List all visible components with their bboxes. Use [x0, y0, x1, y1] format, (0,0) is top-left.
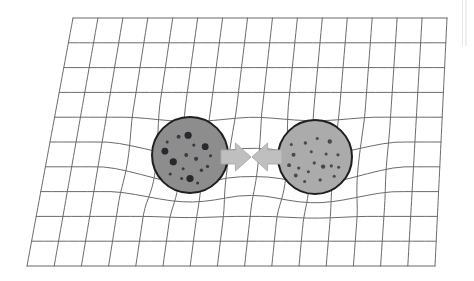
- scan-edge-artifact: [462, 0, 463, 46]
- speckle-dot: [292, 153, 296, 157]
- right-mass-sphere-body: [278, 120, 352, 194]
- speckle-dot: [186, 175, 193, 182]
- grid-line-horizontal: [41, 192, 439, 203]
- right-mass-sphere: [278, 120, 352, 194]
- speckle-dot: [206, 165, 209, 168]
- speckle-dot: [194, 157, 198, 161]
- speckle-dot: [287, 163, 291, 167]
- grid-line-vertical: [109, 18, 148, 266]
- speckle-dot: [290, 143, 293, 146]
- speckle-dot: [297, 167, 300, 170]
- speckle-dot: [319, 178, 322, 181]
- scan-edge-artifact-secondary: [465, 0, 467, 46]
- speckle-dot: [202, 143, 209, 150]
- speckle-dot: [328, 139, 332, 143]
- speckle-dot: [325, 153, 328, 156]
- speckle-dot: [209, 154, 212, 157]
- speckle-dot: [310, 150, 313, 153]
- speckle-dot: [294, 174, 298, 178]
- speckle-dot: [192, 144, 195, 147]
- spacetime-grid: [27, 18, 447, 266]
- speckle-dot: [304, 141, 307, 144]
- speckle-dot: [333, 175, 336, 178]
- speckle-dot: [200, 169, 203, 172]
- speckle-dot: [196, 182, 199, 185]
- grid-line-horizontal: [36, 216, 437, 218]
- speckle-dot: [303, 180, 306, 183]
- speckle-dot: [330, 164, 333, 167]
- speckle-dot: [182, 167, 185, 170]
- figure-canvas: [0, 0, 474, 281]
- speckle-dot: [313, 161, 316, 164]
- speckle-dot: [177, 135, 181, 139]
- speckle-dot: [316, 137, 319, 140]
- speckle-dot: [184, 153, 188, 157]
- speckle-dot: [337, 166, 340, 169]
- grid-line-vertical: [353, 18, 372, 266]
- speckle-dot: [169, 172, 172, 175]
- speckle-dot: [170, 158, 177, 165]
- grid-line-vertical: [245, 18, 273, 266]
- speckle-dot: [162, 148, 169, 155]
- mass-bodies-group: [152, 117, 352, 194]
- left-mass-sphere: [152, 117, 228, 193]
- grid-line-horizontal: [45, 167, 439, 184]
- speckle-dot: [307, 170, 310, 173]
- grid-line-horizontal: [55, 117, 443, 121]
- speckle-dot: [180, 177, 183, 180]
- speckle-dot: [166, 141, 169, 144]
- spacetime-curvature-figure: Two massive spheres rest on a flexible g…: [0, 0, 474, 281]
- speckle-dot: [185, 132, 192, 139]
- right-attraction-arrow: [252, 143, 282, 171]
- speckle-dot: [321, 164, 325, 168]
- speckle-dot: [336, 153, 339, 156]
